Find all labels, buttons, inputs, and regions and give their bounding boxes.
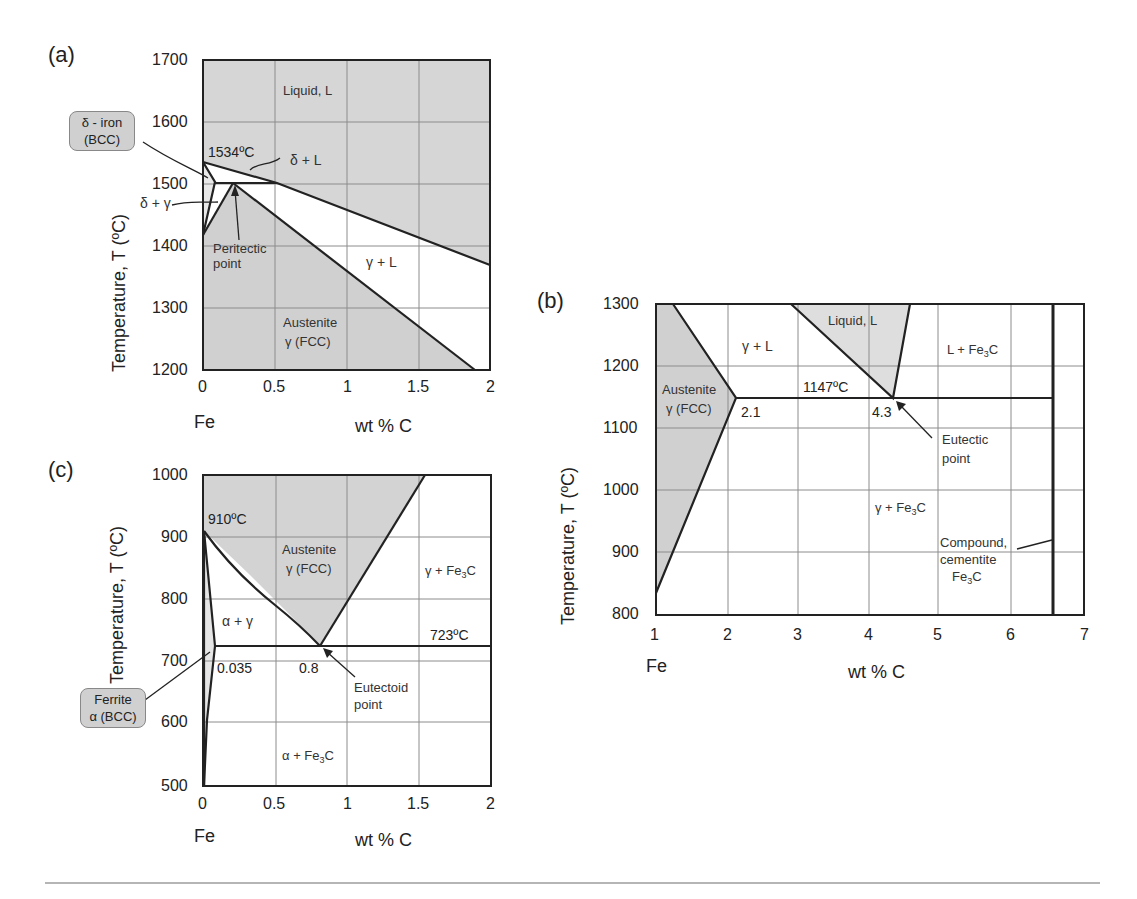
formula-part: C	[325, 748, 334, 763]
eutectoid-label-2: point	[354, 697, 382, 712]
panel-a-xtick: 0	[198, 378, 207, 396]
panel-a-ytick: 1300	[152, 299, 188, 317]
panel-b-ytick: 1100	[603, 419, 637, 437]
formula-part: C	[467, 563, 476, 578]
panel-c-ytick: 500	[161, 777, 188, 795]
comp-0-035: 0.035	[217, 660, 252, 676]
phase-diagrams-canvas	[0, 0, 1137, 899]
panel-b-ytick: 1000	[603, 481, 639, 499]
panel-b-xtick: 5	[933, 626, 942, 644]
temp-1534: 1534ºC	[208, 144, 254, 160]
region-delta-gamma: δ + γ	[140, 195, 171, 211]
formula-part: α + Fe	[282, 748, 320, 763]
formula-part: C	[989, 342, 998, 357]
panel-c-ytick: 700	[161, 652, 188, 670]
panel-b-plot	[656, 304, 1084, 615]
ferrite-callout: Ferrite α (BCC)	[80, 688, 146, 728]
panel-b-ytick: 800	[612, 605, 639, 623]
formula-part: γ + Fe	[425, 563, 462, 578]
panel-b-xtick: 6	[1006, 626, 1015, 644]
comp-0-8: 0.8	[299, 660, 318, 676]
panel-a-xtick: 0.5	[263, 378, 285, 396]
region-austenite-fcc: γ (FCC)	[666, 401, 712, 416]
panel-b-label: (b)	[537, 288, 564, 314]
callout-line: (BCC)	[74, 131, 130, 148]
panel-c-ylabel: Temperature, T (ºC)	[107, 526, 128, 684]
eutectic-label-1: Eutectic	[942, 432, 988, 447]
eutectic-label-2: point	[942, 451, 970, 466]
panel-c-ytick: 900	[161, 528, 188, 546]
panel-b-origin-label: Fe	[646, 656, 667, 677]
panel-b-xtick: 4	[864, 626, 873, 644]
callout-line: δ - iron	[74, 114, 130, 131]
callout-line: Ferrite	[85, 691, 141, 708]
region-austenite: Austenite	[283, 315, 337, 330]
panel-c-xtick: 1	[343, 795, 352, 813]
region-liquid: Liquid, L	[283, 83, 332, 98]
bottom-divider	[45, 882, 1100, 884]
panel-c-xtick: 0.5	[263, 795, 285, 813]
region-austenite-fcc: γ (FCC)	[286, 561, 332, 576]
compound-label-1: Compound,	[940, 535, 1007, 550]
panel-a-xtick: 1	[343, 378, 352, 396]
region-alpha-fe3c: α + Fe3C	[282, 748, 334, 765]
panel-b-ytick: 900	[612, 543, 639, 561]
region-delta-l: δ + L	[290, 152, 322, 168]
panel-a-ytick: 1200	[152, 361, 188, 379]
temp-910: 910ºC	[208, 511, 247, 527]
formula-part: Fe	[952, 569, 967, 584]
region-alpha-gamma: α + γ	[222, 613, 253, 629]
comp-2-1: 2.1	[741, 404, 760, 420]
panel-c-xlabel: wt % C	[355, 830, 412, 851]
region-gamma-fe3c: γ + Fe3C	[425, 563, 476, 580]
panel-b-xtick: 1	[650, 626, 659, 644]
callout-line: α (BCC)	[85, 708, 141, 725]
panel-b-ytick: 1300	[603, 295, 639, 313]
panel-c-xtick: 0	[198, 795, 207, 813]
panel-b-xtick: 3	[793, 626, 802, 644]
panel-a-xtick: 1.5	[407, 378, 429, 396]
panel-a-label: (a)	[48, 42, 75, 68]
comp-4-3: 4.3	[872, 404, 891, 420]
region-austenite: Austenite	[282, 542, 336, 557]
region-austenite: Austenite	[662, 382, 716, 397]
formula-part: C	[972, 569, 981, 584]
panel-c-ytick: 1000	[152, 466, 188, 484]
formula-part: γ + Fe	[875, 500, 912, 515]
temp-723: 723ºC	[430, 627, 469, 643]
panel-b-xlabel: wt % C	[848, 662, 905, 683]
panel-b-xtick: 7	[1080, 626, 1089, 644]
region-gamma-l: γ + L	[742, 338, 773, 354]
panel-b-ytick: 1200	[603, 357, 639, 375]
panel-a-origin-label: Fe	[194, 412, 215, 433]
panel-c-ytick: 800	[161, 590, 188, 608]
formula-part: C	[917, 500, 926, 515]
panel-a-ytick: 1600	[152, 113, 188, 131]
peritectic-label-2: point	[213, 256, 241, 271]
region-liquid: Liquid, L	[828, 313, 877, 328]
delta-iron-callout: δ - iron (BCC)	[69, 111, 135, 151]
region-gamma-fe3c: γ + Fe3C	[875, 500, 926, 517]
region-gamma-l: γ + L	[366, 254, 397, 270]
panel-c-xtick: 1.5	[407, 795, 429, 813]
panel-c-ytick: 600	[161, 713, 188, 731]
panel-c-origin-label: Fe	[194, 826, 215, 847]
compound-label-3: Fe3C	[952, 569, 982, 586]
panel-a-ylabel: Temperature, T (ºC)	[109, 214, 130, 372]
panel-a-xlabel: wt % C	[355, 416, 412, 437]
panel-a-xtick: 2	[486, 378, 495, 396]
panel-a-ytick: 1400	[152, 237, 188, 255]
temp-1147: 1147ºC	[803, 379, 848, 395]
eutectoid-label-1: Eutectoid	[354, 680, 408, 695]
panel-a-ytick: 1500	[152, 175, 188, 193]
formula-part: L + Fe	[947, 342, 984, 357]
region-austenite-fcc: γ (FCC)	[285, 334, 331, 349]
panel-b-xtick: 2	[723, 626, 732, 644]
peritectic-label-1: Peritectic	[213, 241, 266, 256]
panel-a-ytick: 1700	[152, 51, 188, 69]
panel-b-ylabel: Temperature, T (ºC)	[558, 467, 579, 625]
panel-c-xtick: 2	[486, 795, 495, 813]
compound-label-2: cementite	[940, 552, 996, 567]
panel-c-label: (c)	[48, 457, 74, 483]
region-l-fe3c: L + Fe3C	[947, 342, 998, 359]
